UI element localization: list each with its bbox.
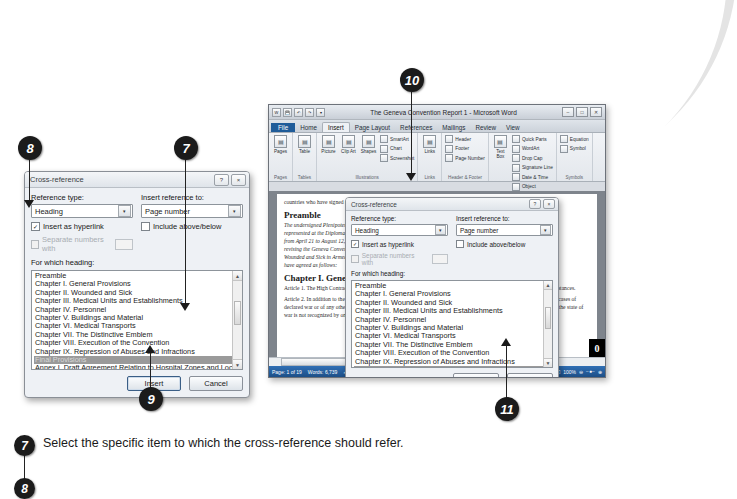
scroll-down-button[interactable]: ▼ [233, 359, 242, 369]
ribbon-button-pages[interactable]: ▤Pages [272, 135, 289, 154]
reference-type-select[interactable]: Heading ▾ [351, 224, 448, 236]
restore-icon[interactable]: □ [576, 107, 588, 117]
ribbon-item-object[interactable]: Object [512, 183, 553, 191]
heading-list[interactable]: PreambleChapter I. General ProvisionsCha… [32, 271, 242, 370]
inner-cross-reference-dialog[interactable]: Cross-reference ? × Reference type: Head… [345, 197, 559, 378]
list-item[interactable]: Annex I. Draft Agreement Relating to Hos… [34, 364, 242, 370]
help-icon[interactable]: ? [529, 199, 541, 209]
zoom-out-icon[interactable]: ⊖ [579, 369, 583, 375]
inner-dialog-window-buttons[interactable]: ? × [529, 199, 555, 209]
customize-qat-icon[interactable]: ▾ [316, 108, 325, 117]
ribbon-tab-insert[interactable]: Insert [322, 122, 350, 132]
ribbon-item-signature-line[interactable]: Signature Line [512, 164, 553, 172]
ribbon-tab-mailings[interactable]: Mailings [437, 123, 470, 132]
chevron-down-icon[interactable]: ▾ [228, 205, 241, 217]
scroll-up-button[interactable]: ▲ [233, 271, 242, 281]
save-icon[interactable]: 💾 [283, 108, 292, 117]
ribbon-item-wordart[interactable]: WordArt [512, 145, 553, 153]
ribbon-button-table[interactable]: ▤Table [296, 135, 313, 154]
insert-as-hyperlink-row[interactable]: ✓ Insert as hyperlink [351, 240, 448, 248]
include-above-below-row[interactable]: Include above/below [141, 222, 243, 231]
ribbon-item-page-number[interactable]: Page Number [445, 154, 485, 162]
inner-close-button[interactable]: Close [507, 373, 553, 378]
scroll-down-button[interactable]: ▼ [544, 358, 552, 367]
cancel-button[interactable]: Cancel [189, 376, 243, 391]
status-words[interactable]: Words: 6,739 [308, 369, 338, 375]
scroll-up-button[interactable]: ▲ [544, 281, 552, 290]
scrollbar-thumb[interactable] [545, 307, 551, 329]
ribbon-item-header[interactable]: Header [445, 135, 485, 143]
listbox-scrollbar[interactable]: ▲ ▼ [232, 271, 242, 369]
ribbon-item-date-time[interactable]: Date & Time [512, 173, 553, 181]
word-titlebar[interactable]: W 💾 ↶ ↷ ▾ The Geneva Convention Report 1… [269, 105, 605, 120]
include-above-below-checkbox[interactable] [456, 240, 464, 248]
quick-access-toolbar[interactable]: W 💾 ↶ ↷ ▾ [272, 108, 325, 117]
insert-reference-to-label: Insert reference to: [141, 193, 243, 202]
insert-as-hyperlink-checkbox[interactable]: ✓ [351, 240, 359, 248]
help-icon[interactable]: ? [214, 174, 229, 186]
inner-heading-listbox[interactable]: PreambleChapter I. General ProvisionsCha… [351, 280, 553, 368]
inner-dialog-titlebar[interactable]: Cross-reference ? × [346, 198, 558, 211]
ribbon-item-chart[interactable]: Chart [380, 145, 414, 153]
chevron-down-icon[interactable]: ▾ [435, 225, 446, 235]
ribbon-tab-home[interactable]: Home [295, 123, 322, 132]
ribbon-tab-page-layout[interactable]: Page Layout [350, 123, 395, 132]
separate-numbers-input [115, 239, 133, 250]
undo-icon[interactable]: ↶ [294, 108, 303, 117]
reference-type-select[interactable]: Heading ▾ [31, 204, 133, 218]
ribbon-button-shapes[interactable]: ▤Shapes [360, 135, 377, 154]
ribbon[interactable]: ▤PagesPages▤TableTables▤Picture▤Clip Art… [269, 133, 605, 182]
heading-listbox[interactable]: PreambleChapter I. General ProvisionsCha… [31, 270, 243, 370]
ribbon-item-footer[interactable]: Footer [445, 145, 485, 153]
ribbon-item-smartart[interactable]: SmartArt [380, 135, 414, 143]
ribbon-item-quick-parts[interactable]: Quick Parts [512, 135, 553, 143]
inner-heading-list[interactable]: PreambleChapter I. General ProvisionsCha… [352, 281, 552, 368]
insert-reference-to-select[interactable]: Page number ▾ [456, 224, 553, 236]
ribbon-item-equation[interactable]: Equation [560, 135, 589, 143]
scrollbar-thumb[interactable] [234, 301, 241, 325]
minimize-icon[interactable]: – [562, 107, 574, 117]
ribbon-tabs[interactable]: FileHomeInsertPage LayoutReferencesMaili… [269, 120, 605, 133]
chevron-down-icon[interactable]: ▾ [540, 225, 551, 235]
chevron-down-icon[interactable]: ▾ [118, 205, 131, 217]
dialog-titlebar[interactable]: Cross-reference ? × [25, 172, 249, 188]
ribbon-item-label: Date & Time [522, 175, 548, 180]
include-above-below-checkbox[interactable] [141, 222, 150, 231]
screenshot-icon [380, 154, 388, 162]
insert-as-hyperlink-row[interactable]: ✓ Insert as hyperlink [31, 222, 133, 231]
ribbon-tab-references[interactable]: References [395, 123, 437, 132]
ribbon-item-screenshot[interactable]: Screenshot [380, 154, 414, 162]
ribbon-button-picture[interactable]: ▤Picture [320, 135, 337, 154]
list-item[interactable]: Final Provisions [354, 366, 552, 368]
inner-insert-button[interactable]: Insert [453, 373, 499, 378]
ribbon-item-label: Header [455, 137, 471, 142]
inner-reference-type-group: Reference type: Heading ▾ ✓ Insert as hy… [351, 215, 448, 266]
ribbon-tab-view[interactable]: View [501, 123, 525, 132]
ribbon-item-label: Equation [570, 137, 589, 142]
cross-reference-dialog[interactable]: Cross-reference ? × Reference type: Head… [24, 171, 250, 398]
ribbon-button-links[interactable]: ▤Links [421, 135, 438, 154]
insert-as-hyperlink-checkbox[interactable]: ✓ [31, 222, 40, 231]
callout-8-arrow [24, 200, 34, 208]
include-above-below-row[interactable]: Include above/below [456, 240, 553, 248]
inner-listbox-scrollbar[interactable]: ▲ ▼ [543, 281, 552, 367]
status-zoom[interactable]: 100% [563, 369, 576, 375]
insert-as-hyperlink-label: Insert as hyperlink [362, 241, 414, 248]
ribbon-tab-review[interactable]: Review [470, 123, 501, 132]
close-icon[interactable]: × [543, 199, 555, 209]
close-icon[interactable]: ✕ [590, 107, 602, 117]
ribbon-item-drop-cap[interactable]: Drop Cap [512, 154, 553, 162]
word-window-controls[interactable]: – □ ✕ [562, 107, 602, 117]
zoom-slider[interactable]: ⎯●⎯ [586, 368, 595, 375]
ribbon-item-symbol[interactable]: Symbol [560, 145, 589, 153]
ribbon-button-text-box[interactable]: ▤Text Box [492, 135, 509, 159]
zoom-in-icon[interactable]: ⊕ [598, 369, 602, 375]
close-icon[interactable]: × [231, 174, 246, 186]
ribbon-tab-file[interactable]: File [271, 123, 295, 132]
word-window[interactable]: W 💾 ↶ ↷ ▾ The Geneva Convention Report 1… [268, 104, 606, 378]
status-page[interactable]: Page: 1 of 19 [272, 369, 302, 375]
redo-icon[interactable]: ↷ [305, 108, 314, 117]
dialog-window-buttons[interactable]: ? × [214, 174, 246, 186]
ribbon-button-clip-art[interactable]: ▤Clip Art [340, 135, 357, 154]
insert-reference-to-select[interactable]: Page number ▾ [141, 204, 243, 218]
